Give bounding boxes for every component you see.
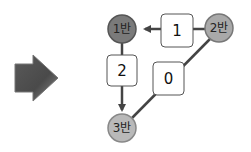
node-label-1: 1반 <box>113 22 132 36</box>
edge-weight-box-2: 2 <box>107 55 137 86</box>
node-class-3: 3반 <box>108 114 136 142</box>
edge-weight-0: 0 <box>164 70 174 88</box>
right-arrow-icon <box>15 55 58 101</box>
edge-weight-1: 1 <box>172 22 182 40</box>
node-label-2: 2반 <box>210 21 229 35</box>
node-class-1: 1반 <box>108 15 136 43</box>
flow-diagram: 1 2 0 1반 2반 3반 <box>0 0 251 152</box>
edge-weight-box-1: 1 <box>161 14 193 47</box>
edge-weight-box-0: 0 <box>153 62 184 95</box>
edge-weight-2: 2 <box>117 62 127 80</box>
node-label-3: 3반 <box>113 121 132 135</box>
node-class-2: 2반 <box>205 14 233 42</box>
